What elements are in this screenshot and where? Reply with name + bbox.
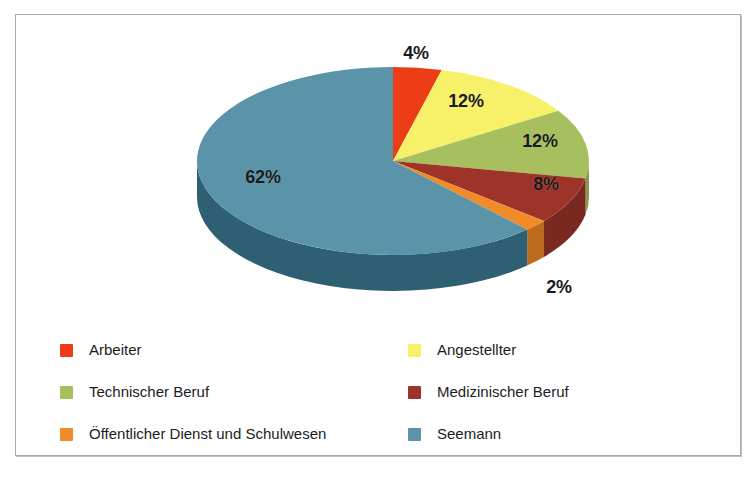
legend-swatch-icon-technischer-beruf (60, 386, 73, 399)
legend-item-oeffentlicher-dienst[interactable]: Öffentlicher Dienst und Schulwesen (60, 423, 408, 445)
legend-label-seemann: Seemann (437, 425, 501, 443)
legend-item-arbeiter[interactable]: Arbeiter (60, 339, 408, 361)
data-label-arbeiter: 4% (403, 43, 429, 64)
legend-swatch-icon-arbeiter (60, 344, 73, 357)
legend-label-medizinischer-beruf: Medizinischer Beruf (437, 383, 569, 401)
legend-row: Arbeiter Angestellter (60, 339, 700, 369)
data-label-technischer: 12% (522, 131, 557, 152)
legend-swatch-icon-seemann (408, 428, 421, 441)
data-label-medizinischer: 8% (533, 174, 559, 195)
legend-row: Technischer Beruf Medizinischer Beruf (60, 381, 700, 411)
pie-chart-plot-area: 4% 12% 12% 8% 2% 62% (16, 15, 740, 315)
pie-chart-svg (16, 15, 740, 315)
legend-item-angestellter[interactable]: Angestellter (408, 339, 700, 361)
legend-swatch-icon-angestellter (408, 344, 421, 357)
legend-item-medizinischer-beruf[interactable]: Medizinischer Beruf (408, 381, 700, 403)
legend-swatch-icon-oeffentlicher-dienst (60, 428, 73, 441)
data-label-oeffentlich: 2% (546, 277, 572, 298)
legend-label-angestellter: Angestellter (437, 341, 516, 359)
legend-item-technischer-beruf[interactable]: Technischer Beruf (60, 381, 408, 403)
data-label-angestellter: 12% (448, 91, 483, 112)
chart-legend: Arbeiter Angestellter Technischer Beruf … (60, 333, 700, 451)
legend-label-technischer-beruf: Technischer Beruf (89, 383, 209, 401)
chart-card: 4% 12% 12% 8% 2% 62% Arbeiter Angestellt… (15, 14, 741, 456)
legend-label-oeffentlicher-dienst: Öffentlicher Dienst und Schulwesen (89, 425, 326, 443)
legend-row: Öffentlicher Dienst und Schulwesen Seema… (60, 423, 700, 453)
data-label-seemann: 62% (245, 167, 280, 188)
legend-item-seemann[interactable]: Seemann (408, 423, 700, 445)
pie-top-faces (197, 67, 589, 255)
legend-label-arbeiter: Arbeiter (89, 341, 142, 359)
legend-swatch-icon-medizinischer-beruf (408, 386, 421, 399)
